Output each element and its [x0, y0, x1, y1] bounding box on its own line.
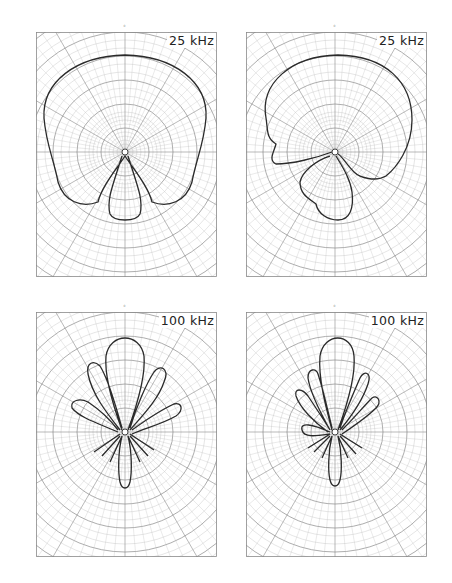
angle-tick-zero: 0	[124, 24, 126, 28]
beam-pattern-trace	[72, 338, 181, 488]
frequency-label: 100 kHz	[159, 313, 216, 328]
angle-tick-zero: 0	[124, 304, 126, 308]
polar-grid: 0	[246, 312, 427, 557]
angle-tick-zero: 0	[334, 24, 336, 28]
polar-chart-bottom-right: 0 100 kHz	[246, 312, 427, 557]
polar-grid: 0	[36, 312, 217, 557]
polar-grid: 0	[36, 32, 217, 277]
polar-grid: 0	[246, 32, 427, 277]
frequency-label: 25 kHz	[167, 33, 216, 48]
polar-chart-bottom-left: 0 100 kHz	[36, 312, 217, 557]
angle-tick-zero: 0	[334, 304, 336, 308]
frequency-label: 25 kHz	[377, 33, 426, 48]
polar-chart-top-left: 0 25 kHz	[36, 32, 217, 277]
frequency-label: 100 kHz	[369, 313, 426, 328]
polar-chart-top-right: 0 25 kHz	[246, 32, 427, 277]
